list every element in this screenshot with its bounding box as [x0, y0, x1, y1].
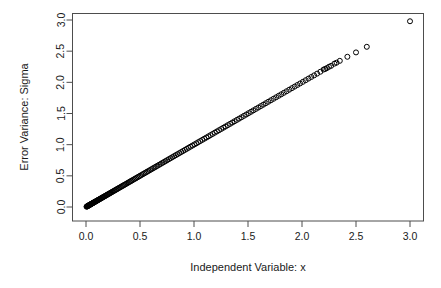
y-tick-label: 1.5	[55, 106, 67, 121]
chart-canvas: 0.00.51.01.52.02.53.0 0.00.51.01.52.02.5…	[0, 0, 441, 288]
y-tick-label: 3.0	[55, 13, 67, 28]
x-tick-label: 0.5	[133, 230, 148, 242]
x-tick-label: 1.0	[187, 230, 202, 242]
x-axis-title: Independent Variable: x	[190, 261, 306, 273]
y-tick-label: 0.5	[55, 168, 67, 183]
x-tick-label: 3.0	[403, 230, 418, 242]
y-axis-title: Error Variance: Sigma	[18, 62, 30, 170]
y-tick-label: 2.5	[55, 44, 67, 59]
x-tick-label: 2.0	[295, 230, 310, 242]
x-tick-label: 1.5	[241, 230, 256, 242]
y-tick-label: 2.0	[55, 75, 67, 90]
y-tick-label: 0.0	[55, 200, 67, 215]
x-tick-label: 0.0	[79, 230, 94, 242]
y-tick-label: 1.0	[55, 137, 67, 152]
scatter-plot-figure: 0.00.51.01.52.02.53.0 0.00.51.01.52.02.5…	[0, 0, 441, 288]
x-tick-label: 2.5	[349, 230, 364, 242]
